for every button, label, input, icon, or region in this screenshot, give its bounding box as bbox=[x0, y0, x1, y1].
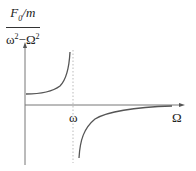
plot-area bbox=[0, 0, 196, 171]
x-axis-label: Ω bbox=[172, 110, 182, 126]
x-axis-arrow-icon bbox=[179, 103, 185, 107]
asymptote-label: ω bbox=[69, 110, 78, 126]
curve-branch-left bbox=[26, 52, 70, 94]
y-axis-arrow-icon bbox=[23, 42, 27, 48]
curve-branch-right bbox=[79, 106, 172, 158]
